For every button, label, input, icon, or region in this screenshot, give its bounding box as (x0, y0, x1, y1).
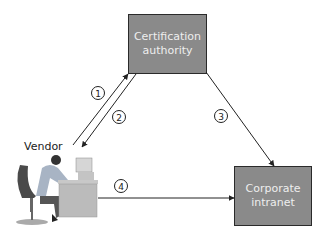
arrow-1 (73, 74, 128, 145)
svg-text:3: 3 (218, 112, 224, 122)
svg-text:2: 2 (116, 113, 122, 123)
svg-text:1: 1 (95, 89, 101, 99)
diagram-arrows: 1 2 3 4 (0, 0, 325, 236)
step-3-badge: 3 (215, 110, 228, 123)
step-2-badge: 2 (113, 111, 126, 124)
step-1-badge: 1 (92, 87, 105, 100)
vendor-person-at-desk-icon (16, 155, 98, 225)
arrow-2 (82, 74, 136, 147)
step-4-badge: 4 (115, 180, 128, 193)
svg-text:4: 4 (118, 182, 124, 192)
